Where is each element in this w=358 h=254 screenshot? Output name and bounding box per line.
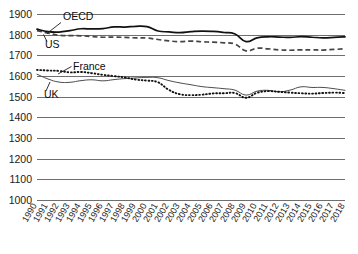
- series-label-oecd: OECD: [63, 10, 94, 22]
- series-line-oecd: [37, 31, 345, 51]
- y-tick-label: 1800: [9, 29, 33, 41]
- y-tick-label: 1700: [9, 49, 33, 61]
- gridlines-group: [37, 15, 345, 201]
- chart-container: 1000110012001300140015001600170018001900…: [0, 0, 358, 254]
- y-tick-label: 1100: [9, 173, 32, 185]
- line-chart: 1000110012001300140015001600170018001900…: [0, 0, 358, 254]
- y-tick-label: 1200: [9, 153, 33, 165]
- y-tick-label: 1500: [9, 91, 33, 103]
- series-line-uk: [37, 74, 345, 95]
- y-tick-label: 1600: [9, 70, 33, 82]
- y-tick-label: 1900: [9, 8, 33, 20]
- leader-line-france: [58, 67, 72, 75]
- x-axis-tick-labels: 1990199119921993199419951996199719981999…: [20, 202, 347, 224]
- y-tick-label: 1300: [9, 132, 33, 144]
- series-line-us: [37, 26, 345, 42]
- y-tick-label: 1400: [9, 111, 33, 123]
- series-label-france: France: [73, 60, 106, 72]
- y-axis-tick-labels: 1000110012001300140015001600170018001900: [9, 8, 33, 206]
- series-annotations-group: OECDUSFranceUK: [44, 10, 106, 100]
- series-label-uk: UK: [44, 88, 59, 100]
- series-label-us: US: [45, 38, 60, 50]
- series-line-france: [37, 70, 345, 98]
